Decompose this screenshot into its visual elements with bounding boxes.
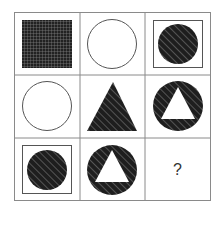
cell-r2c3-hatched-circle-with-triangle — [153, 81, 203, 131]
cell-r2c1-white-circle — [23, 82, 72, 131]
cell-r3c1-framed-hatched-circle — [23, 146, 72, 194]
cell-r1c3-framed-hatched-circle — [154, 21, 203, 68]
answer-cell-question-mark: ? — [145, 138, 210, 201]
cell-r1c2-white-circle — [88, 20, 137, 69]
cell-r3c2-hatched-circle-with-triangle — [87, 145, 137, 195]
cell-r2c2-hatched-triangle — [87, 82, 137, 131]
cell-r1c1-grid-square — [22, 20, 72, 68]
